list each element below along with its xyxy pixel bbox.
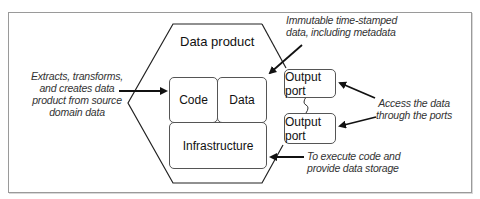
data-label: Data xyxy=(229,93,254,107)
output-port-label-2: Output port xyxy=(285,115,335,143)
code-label: Code xyxy=(179,93,208,107)
annotation-line: To execute code and xyxy=(307,150,400,162)
output-port-label-1: Output port xyxy=(285,70,335,98)
annotation-immutable: Immutable time-stamped data, including m… xyxy=(286,14,397,38)
annotation-line: and creates data xyxy=(30,82,124,94)
infrastructure-box: Infrastructure xyxy=(169,122,267,169)
annotation-access: Access the data through the ports xyxy=(376,97,452,121)
annotation-line: product from source xyxy=(30,94,124,106)
code-box: Code xyxy=(169,77,218,123)
output-port-box-2: Output port xyxy=(284,113,336,144)
arrow-access-2 xyxy=(340,117,376,126)
data-box: Data xyxy=(217,77,267,123)
annotation-line: data, including metadata xyxy=(286,26,397,38)
annotation-execute: To execute code and provide data storage xyxy=(307,150,400,174)
annotation-line: provide data storage xyxy=(307,162,400,174)
port-connector xyxy=(304,97,308,113)
annotation-line: Access the data xyxy=(376,97,452,109)
annotation-line: domain data xyxy=(30,106,124,118)
annotation-line: through the ports xyxy=(376,109,452,121)
data-product-title: Data product xyxy=(180,34,254,49)
infrastructure-label: Infrastructure xyxy=(183,139,254,153)
annotation-line: Extracts, transforms, xyxy=(30,70,124,82)
annotation-line: Immutable time-stamped xyxy=(286,14,397,26)
annotation-extracts: Extracts, transforms, and creates data p… xyxy=(30,70,124,118)
arrow-access-1 xyxy=(340,83,375,98)
output-port-box-1: Output port xyxy=(284,69,336,98)
